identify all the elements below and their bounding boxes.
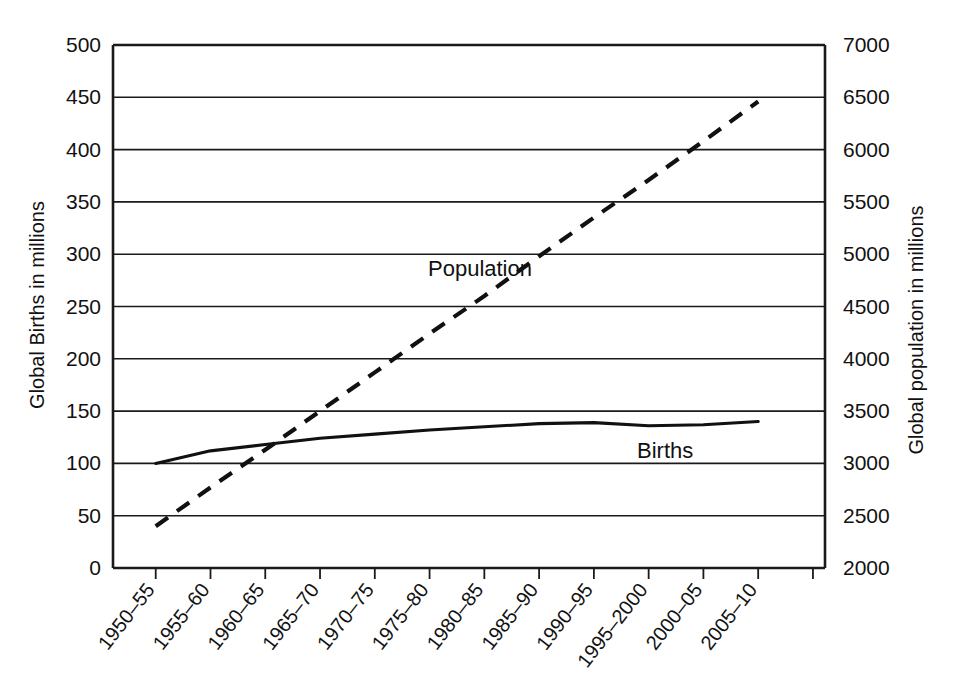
y-axis-right-tick-label: 2500 [843,504,890,527]
y-axis-right-tick-label: 7000 [843,33,890,56]
y-axis-left-tick-label: 250 [66,295,101,318]
y-axis-right-tick-label: 5500 [843,190,890,213]
y-axis-right-tick-label: 6000 [843,138,890,161]
chart-canvas: 050100150200250300350400450500 200025003… [0,0,955,681]
y-axis-left-tick-label: 300 [66,242,101,265]
y-axis-left-tick-label: 450 [66,85,101,108]
y-axis-left-tick-label: 350 [66,190,101,213]
y-axis-right-tick-label: 4500 [843,295,890,318]
y-axis-right-tick-label: 3500 [843,399,890,422]
y-axis-left-tick-label: 0 [89,556,101,579]
y-axis-left-tick-label: 500 [66,33,101,56]
y-axis-right-tick-label: 2000 [843,556,890,579]
y-axis-left-tick-label: 50 [78,504,101,527]
y-axis-left-tick-label: 150 [66,399,101,422]
chart-figure: 050100150200250300350400450500 200025003… [0,0,955,681]
y-axis-right-tick-label: 6500 [843,85,890,108]
y-axis-left-tick-label: 100 [66,451,101,474]
y-axis-right-title: Global population in millions [905,205,927,454]
y-axis-right-tick-label: 5000 [843,242,890,265]
y-axis-left-title: Global Births in millions [26,201,48,409]
y-axis-left-tick-label: 400 [66,138,101,161]
y-axis-right-tick-label: 3000 [843,451,890,474]
y-axis-right-tick-label: 4000 [843,347,890,370]
y-axis-left-tick-label: 200 [66,347,101,370]
births-series-label: Births [637,438,693,463]
population-series-label: Population [428,256,532,281]
chart-background [0,0,955,681]
